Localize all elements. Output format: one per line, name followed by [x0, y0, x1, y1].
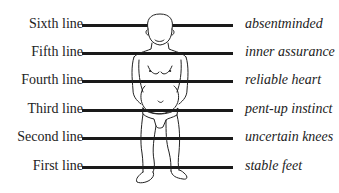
standing-human-figure-icon — [0, 0, 339, 193]
